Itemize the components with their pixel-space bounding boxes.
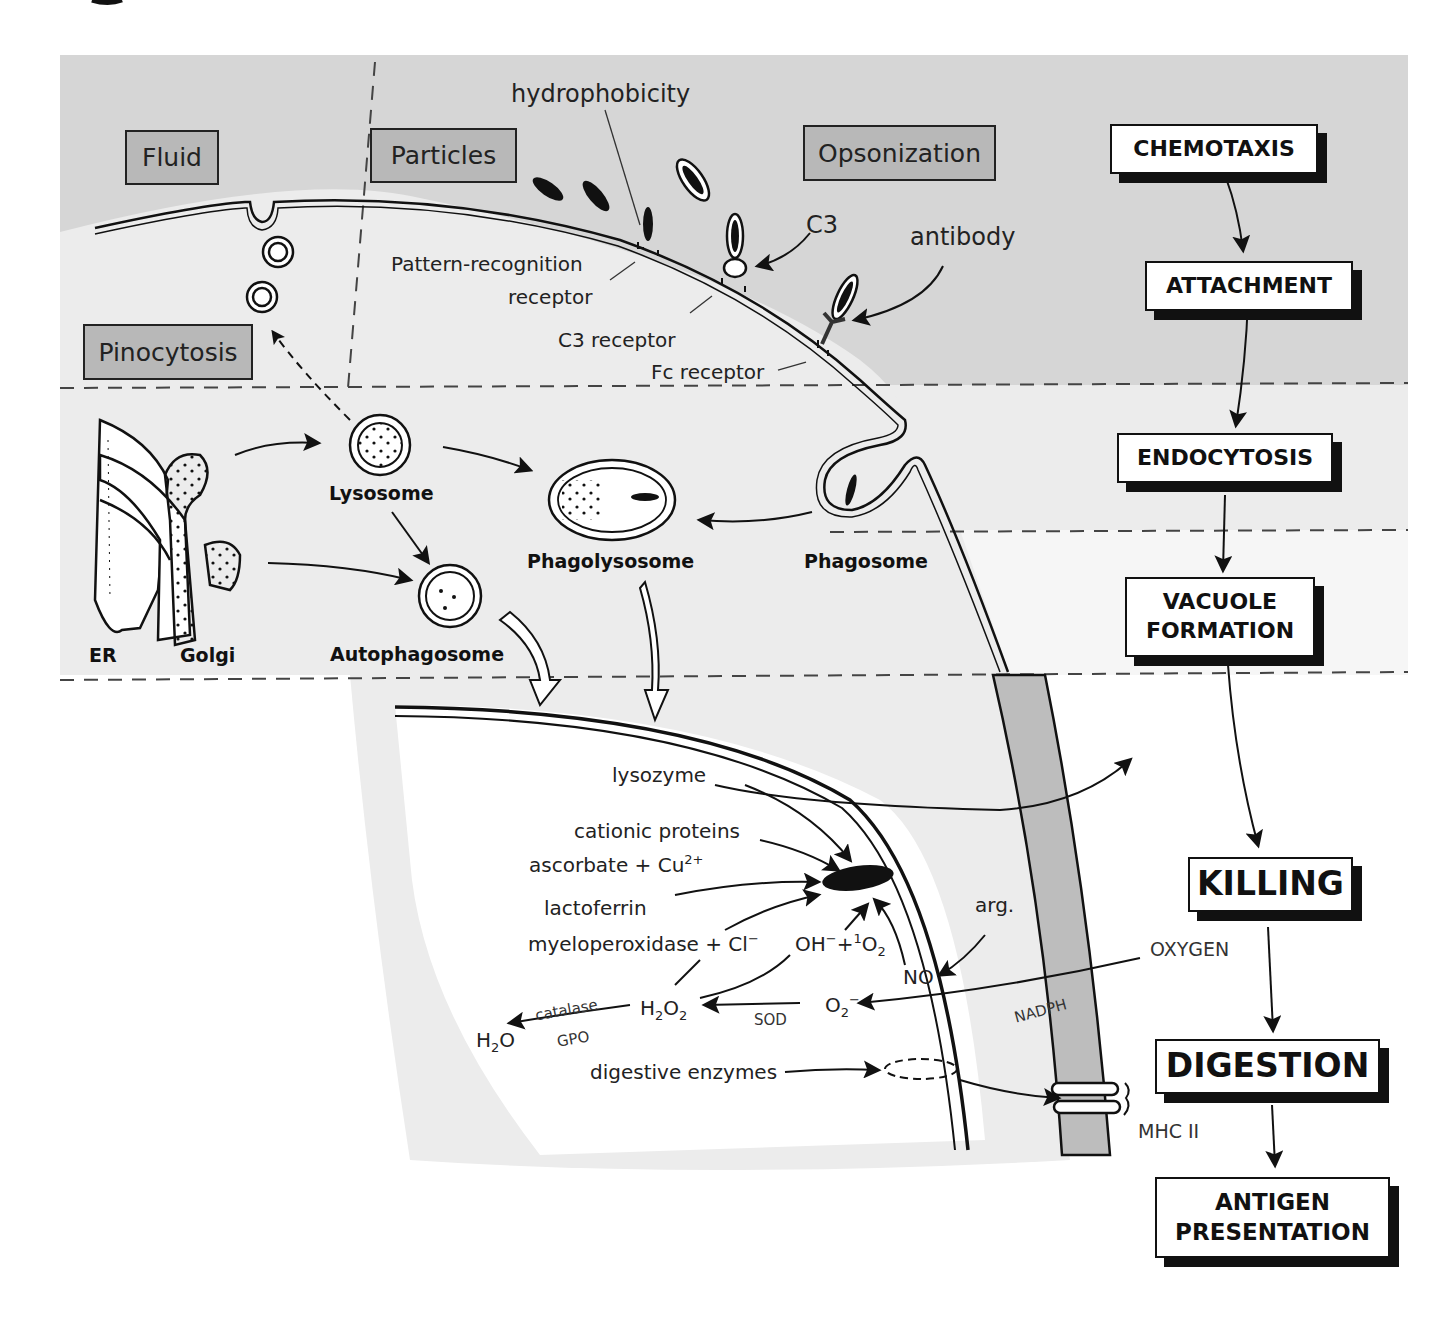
sod-label: SOD (754, 1013, 787, 1028)
receptor-label: receptor (508, 287, 592, 307)
step-digestion: DIGESTION (1155, 1039, 1380, 1094)
er-label: ER (89, 646, 117, 665)
fc-receptor-label: Fc receptor (651, 362, 764, 382)
step-attachment: ATTACHMENT (1145, 261, 1353, 311)
opsonization-label: Opsonization (818, 139, 981, 168)
phagosome-label: Phagosome (804, 552, 928, 571)
oxygen-label: OXYGEN (1150, 940, 1229, 959)
hydrogen-peroxide-label: H2O2 (640, 998, 687, 1022)
autophagosome-glyph (419, 565, 481, 627)
ascorbate-label: ascorbate + Cu2+ (529, 853, 704, 875)
panel-letter-fragment (92, 0, 122, 3)
fluid-label: Fluid (142, 143, 202, 172)
particles-label-box: Particles (370, 128, 517, 183)
step-killing: KILLING (1188, 857, 1353, 912)
lysosome-label: Lysosome (329, 484, 434, 503)
step-antigen-presentation: ANTIGENPRESENTATION (1155, 1177, 1390, 1258)
pinocytosis-label: Pinocytosis (98, 338, 237, 367)
hydrophobicity-label: hydrophobicity (511, 82, 690, 106)
mhc-ii-label: MHC II (1138, 1122, 1199, 1141)
myeloperoxidase-label: myeloperoxidase + Cl− (528, 932, 759, 954)
particles-label: Particles (391, 141, 496, 170)
cationic-proteins-label: cationic proteins (574, 821, 740, 841)
opsonization-label-box: Opsonization (803, 125, 996, 181)
antibody-label: antibody (910, 225, 1015, 249)
water-label: H2O (476, 1030, 515, 1054)
step-endocytosis: ENDOCYTOSIS (1117, 433, 1333, 483)
fluid-label-box: Fluid (125, 130, 219, 185)
pattern-recognition-label: Pattern-recognition (391, 254, 583, 274)
digestive-enzymes-label: digestive enzymes (590, 1062, 777, 1082)
c3-label: C3 (806, 213, 838, 237)
autophagosome-label: Autophagosome (330, 645, 504, 664)
lactoferrin-label: lactoferrin (544, 898, 647, 918)
nitric-oxide-label: NO (903, 967, 934, 987)
lysozyme-label: lysozyme (612, 765, 706, 785)
phagolysosome-glyph (549, 460, 675, 540)
phagolysosome-label: Phagolysosome (527, 552, 694, 571)
c3-receptor-label: C3 receptor (558, 330, 675, 350)
step-vacuole-formation: VACUOLEFORMATION (1125, 577, 1315, 657)
hydroxyl-singlet-oxygen-label: OH−+1O2 (795, 932, 886, 958)
step-chemotaxis: CHEMOTAXIS (1110, 124, 1318, 174)
lysosome-glyph (350, 415, 410, 475)
golgi-label: Golgi (180, 646, 235, 665)
arginine-label: arg. (975, 895, 1014, 915)
superoxide-label: O2− (825, 993, 860, 1019)
pinocytosis-label-box: Pinocytosis (83, 324, 253, 380)
